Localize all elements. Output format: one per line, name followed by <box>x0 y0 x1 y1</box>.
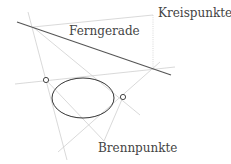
ellipse <box>52 78 114 118</box>
label-kreispunkte: Kreispunkte <box>158 6 231 20</box>
label-ferngerade: Ferngerade <box>69 24 140 38</box>
line-diag-left <box>33 27 140 115</box>
focus-point-right <box>120 94 125 99</box>
line-focus-right <box>104 97 123 141</box>
focus-point-left <box>43 77 48 82</box>
label-brennpunkte: Brennpunkte <box>98 141 177 155</box>
line-left-steep <box>28 12 67 160</box>
line-right-to-bottom <box>58 62 160 152</box>
